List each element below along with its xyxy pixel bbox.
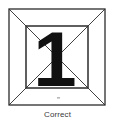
figure-caption: Correct [0,110,115,120]
figure-container: 1 Correct [0,0,115,125]
digit-one: 1 [33,15,76,103]
figure-drawing: 1 [0,0,115,125]
